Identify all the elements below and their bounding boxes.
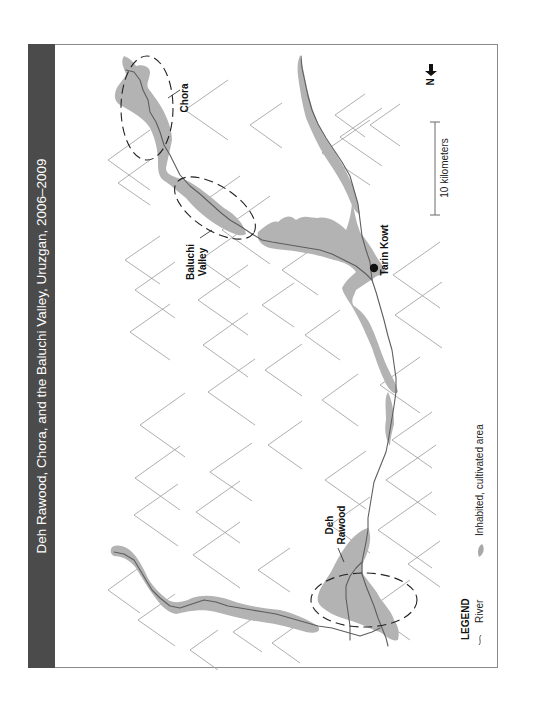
label-deh-line2: Rawood [336, 506, 347, 545]
legend-title: LEGEND [460, 598, 471, 640]
scale-label: 10 kilometers [439, 138, 450, 197]
label-chora: Chora [179, 83, 190, 112]
tarin-kowt-marker [370, 264, 378, 272]
legend-river-label: River [474, 599, 485, 623]
legend-cultivated-label: Inhabited, cultivated area [474, 424, 485, 536]
label-tarin-kowt: Tarin Kowt [379, 224, 390, 276]
label-baluchi-line2: Valley [197, 247, 208, 276]
label-baluchi-line1: Baluchi [185, 244, 196, 280]
map-title: Deh Rawood, Chora, and the Baluchi Valle… [34, 158, 49, 553]
label-deh-line1: Deh [324, 516, 335, 535]
map-frame [29, 45, 498, 668]
map: Deh Rawood, Chora, and the Baluchi Valle… [0, 0, 546, 701]
north-label: N [425, 78, 436, 85]
